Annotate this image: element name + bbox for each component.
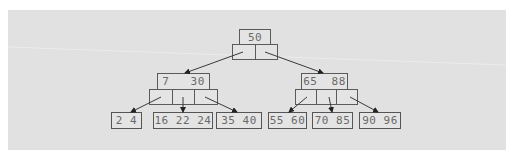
internal-node-right-pointers bbox=[295, 89, 358, 105]
root-pointer-0 bbox=[233, 45, 256, 59]
internal-node-left-keys: 7 30 bbox=[157, 73, 210, 90]
root-pointer-1 bbox=[256, 45, 278, 59]
root-key-label: 50 bbox=[248, 32, 262, 43]
internal-right-pointer-2 bbox=[337, 90, 357, 104]
leaf-label: 35 40 bbox=[221, 115, 257, 126]
leaf-label: 2 4 bbox=[116, 115, 137, 126]
internal-left-pointer-2 bbox=[195, 90, 217, 104]
internal-left-pointer-1 bbox=[173, 90, 196, 104]
leaf-label: 55 60 bbox=[270, 115, 306, 126]
leaf-label: 70 85 bbox=[315, 115, 351, 126]
internal-node-right-keys: 65 88 bbox=[301, 73, 348, 90]
leaf-node: 2 4 bbox=[111, 112, 142, 129]
leaf-node: 16 22 24 bbox=[153, 112, 213, 129]
internal-node-left-pointers bbox=[149, 89, 218, 105]
leaf-node: 35 40 bbox=[216, 112, 262, 129]
internal-right-pointer-0 bbox=[296, 90, 317, 104]
leaf-node: 55 60 bbox=[268, 112, 307, 129]
leaf-label: 16 22 24 bbox=[155, 115, 212, 126]
internal-left-pointer-0 bbox=[150, 90, 173, 104]
internal-left-key-label: 7 30 bbox=[162, 76, 205, 87]
root-node-pointers bbox=[232, 44, 278, 60]
root-node-keys: 50 bbox=[239, 29, 271, 45]
leaf-label: 90 96 bbox=[362, 115, 398, 126]
leaf-node: 70 85 bbox=[312, 112, 353, 129]
internal-right-key-label: 65 88 bbox=[303, 76, 346, 87]
internal-right-pointer-1 bbox=[317, 90, 338, 104]
leaf-node: 90 96 bbox=[359, 112, 401, 129]
